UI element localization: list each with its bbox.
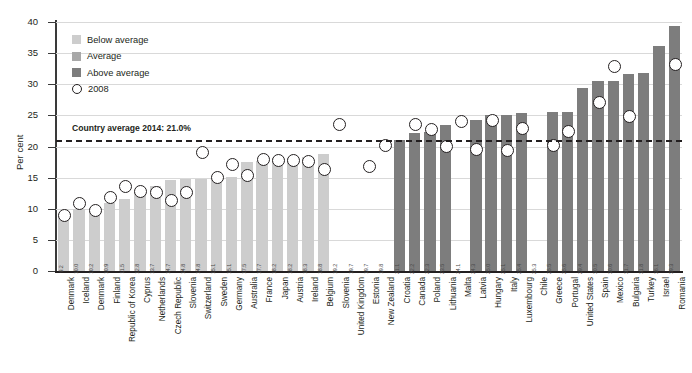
bar-series: 9.210.010.210.911.512.813.714.714.814.81… [56,22,682,271]
bar-column[interactable]: 31.7 [621,22,636,271]
x-axis-label: Luxembourg [525,277,534,323]
x-axis-label: Denmark [97,277,106,310]
bar[interactable]: 25.0 [485,115,496,271]
bar[interactable]: 17.7 [256,161,267,271]
bar-column[interactable]: 24.1 [453,22,468,271]
bar[interactable]: 22.2 [409,133,420,271]
y-tick-mark [48,240,55,241]
bar-column[interactable]: 17.7 [254,22,269,271]
bar-column[interactable]: 30.6 [606,22,621,271]
bar-column[interactable]: 19.7 [346,22,361,271]
bar-column[interactable]: 23.5 [438,22,453,271]
legend-label: Below average [87,35,149,45]
bar[interactable]: 31.7 [623,74,634,271]
bar[interactable]: 10.2 [89,208,100,271]
x-axis-label: Poland [433,277,442,303]
bar-column[interactable]: 24.3 [468,22,483,271]
bar[interactable]: 22.3 [424,132,435,271]
marker-2008 [623,110,636,123]
bar[interactable]: 25.5 [547,112,558,271]
bar-column[interactable]: 18.2 [270,22,285,271]
bar-value-label: 30.6 [607,264,613,274]
marker-2008 [669,58,682,71]
y-tick: 10 [40,209,54,210]
y-tick-label: 25 [27,108,38,121]
bar-column[interactable]: 25.6 [560,22,575,271]
bar[interactable]: 25.4 [516,113,527,271]
bar-column[interactable]: 15.1 [224,22,239,271]
bar[interactable]: 10.9 [104,203,115,271]
bar[interactable]: 19.2 [333,151,344,271]
bar-value-label: 25.4 [516,264,522,274]
bar-column[interactable]: 9.2 [56,22,71,271]
bar-column[interactable]: 31.8 [636,22,651,271]
y-tick: 20 [40,147,54,148]
bar[interactable]: 10.0 [73,209,84,271]
bar-column[interactable]: 25.5 [545,22,560,271]
y-tick-label: 35 [27,46,38,59]
bar-column[interactable]: 22.3 [422,22,437,271]
bar[interactable]: 21.1 [394,140,405,271]
bar[interactable]: 9.2 [58,214,69,271]
bar[interactable]: 18.2 [287,158,298,271]
bar-column[interactable]: 19.2 [331,22,346,271]
bar-column[interactable]: 29.4 [575,22,590,271]
y-tick-label: 0 [33,264,38,277]
bar-column[interactable]: 22.2 [407,22,422,271]
bar-column[interactable]: 14.7 [163,22,178,271]
bar[interactable]: 18.2 [272,158,283,271]
bar-column[interactable]: 18.2 [285,22,300,271]
bar-column[interactable]: 25.1 [499,22,514,271]
bar-column[interactable]: 17.5 [239,22,254,271]
x-axis-label: Finland [113,277,122,304]
bar-column[interactable]: 39.3 [667,22,682,271]
bar-value-label: 18.2 [271,264,277,274]
bar-column[interactable]: 18.8 [316,22,331,271]
marker-2008 [180,186,193,199]
bar-value-label: 24.1 [455,264,461,274]
marker-2008 [455,115,468,128]
legend-item: Average [72,50,150,63]
x-axis-label: Mexico [616,277,625,303]
legend-swatch-icon [72,52,81,61]
bar-value-label: 31.8 [638,264,644,274]
bar-column[interactable]: 21.1 [392,22,407,271]
bar-column[interactable]: 30.5 [590,22,605,271]
chart-legend: Below averageAverageAbove average2008 [72,33,150,96]
bar[interactable]: 11.5 [119,199,130,271]
bar-column[interactable]: 15.1 [209,22,224,271]
y-tick-mark [48,271,55,272]
bar-column[interactable]: 14.8 [193,22,208,271]
x-axis-category-labels: DenmarkIcelandDenmarkFinlandRepublic of … [56,277,682,369]
x-axis-label: Lithuania [449,277,458,310]
bar-value-label: 19.7 [363,264,369,274]
bar-column[interactable]: 36.1 [651,22,666,271]
bar[interactable]: 25.3 [531,114,542,271]
bar[interactable]: 15.1 [211,177,222,271]
bar-column[interactable]: 25.4 [514,22,529,271]
bar-column[interactable]: 18.3 [300,22,315,271]
bar-column[interactable]: 13.7 [148,22,163,271]
bar[interactable]: 15.1 [226,177,237,271]
marker-2008 [226,158,239,171]
bar-column[interactable]: 19.8 [377,22,392,271]
bar[interactable]: 30.5 [592,81,603,271]
bar[interactable]: 19.7 [348,148,359,271]
bar-column[interactable]: 25.0 [484,22,499,271]
bar-value-label: 17.5 [241,264,247,274]
bar[interactable]: 24.1 [455,121,466,271]
bar[interactable]: 36.1 [653,46,664,271]
bar[interactable]: 19.8 [379,148,390,271]
y-tick-mark [48,84,55,85]
bar[interactable]: 31.8 [638,73,649,271]
bar-column[interactable]: 19.7 [361,22,376,271]
bar[interactable]: 25.1 [501,115,512,271]
bar[interactable]: 30.6 [608,81,619,271]
bar[interactable]: 29.4 [577,88,588,271]
bar[interactable]: 24.3 [470,120,481,271]
bar[interactable]: 12.8 [134,191,145,271]
bar[interactable]: 14.8 [195,179,206,271]
bar[interactable]: 18.3 [302,157,313,271]
bar-column[interactable]: 25.3 [529,22,544,271]
bar-column[interactable]: 14.8 [178,22,193,271]
